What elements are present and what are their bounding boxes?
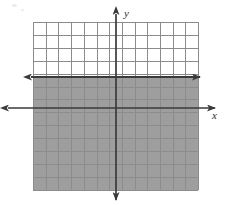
x-axis-label: x (212, 110, 217, 121)
coordinate-graph-figure: y x (0, 0, 227, 205)
y-axis-label: y (124, 8, 129, 19)
graph-canvas (0, 0, 227, 205)
